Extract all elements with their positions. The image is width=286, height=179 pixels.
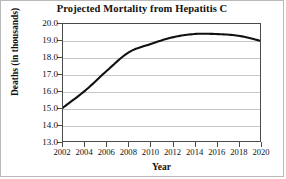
- y-tick-label: 20.0: [18, 19, 58, 28]
- x-axis-title: Year: [62, 162, 261, 172]
- series-line: [63, 24, 260, 141]
- y-tick-label: 17.0: [18, 70, 58, 79]
- y-tick-label: 18.0: [18, 53, 58, 62]
- plot-area: [62, 23, 261, 142]
- chart-figure: Projected Mortality from Hepatitis C Dea…: [0, 0, 284, 177]
- y-tick-label: 14.0: [18, 121, 58, 130]
- y-tick-label: 15.0: [18, 104, 58, 113]
- y-tick-label: 16.0: [18, 87, 58, 96]
- y-tick-label: 19.0: [18, 36, 58, 45]
- chart-title: Projected Mortality from Hepatitis C: [1, 3, 283, 14]
- y-tick-label: 13.0: [18, 138, 58, 147]
- x-tick-label: 2020: [241, 148, 281, 157]
